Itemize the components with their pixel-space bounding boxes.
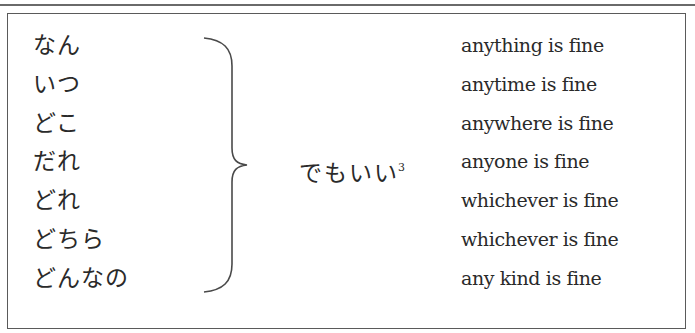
right-curly-brace-icon	[195, 36, 255, 296]
english-translation: anytime is fine	[461, 65, 618, 104]
japanese-word-list: なん いつ どこ だれ どれ どちら どんなの	[33, 26, 129, 298]
english-translation: any kind is fine	[461, 259, 618, 298]
top-rule	[0, 4, 695, 6]
english-translation: anyone is fine	[461, 142, 618, 181]
english-translation: whichever is fine	[461, 181, 618, 220]
japanese-word: いつ	[33, 65, 129, 104]
japanese-word: なん	[33, 26, 129, 65]
japanese-word: どれ	[33, 181, 129, 220]
suffix-text: でもいい	[299, 160, 399, 186]
english-translation-list: anything is fine anytime is fine anywher…	[461, 26, 618, 298]
japanese-word: どちら	[33, 220, 129, 259]
english-translation: anywhere is fine	[461, 104, 618, 143]
english-translation: anything is fine	[461, 26, 618, 65]
footnote-marker: 3	[398, 161, 405, 174]
suffix-phrase: でもいい3	[299, 154, 405, 188]
japanese-word: どんなの	[33, 259, 129, 298]
english-translation: whichever is fine	[461, 220, 618, 259]
japanese-word: だれ	[33, 142, 129, 181]
japanese-word: どこ	[33, 104, 129, 143]
